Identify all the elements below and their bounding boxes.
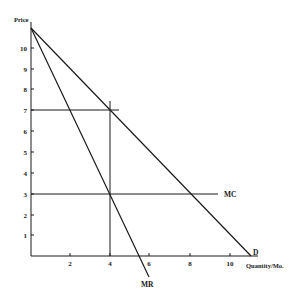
y-tick-10: 10 [20,45,28,53]
y-axis-title: Price [14,16,29,23]
x-tick-6: 6 [147,260,151,268]
y-tick-6: 6 [24,128,28,136]
y-tick-2: 2 [24,212,28,220]
mr-label: MR [141,280,154,289]
y-tick-labels: 10 9 8 7 6 5 4 3 2 1 [20,45,28,240]
x-axis-title: Quantity/Mo. [246,262,284,269]
monopoly-chart: 10 9 8 7 6 5 4 3 2 1 2 4 6 8 10 Price Qu… [0,0,295,296]
y-tick-3: 3 [24,191,28,199]
y-tick-7: 7 [24,107,28,115]
y-tick-5: 5 [24,149,28,157]
y-tick-8: 8 [24,86,28,94]
x-tick-2: 2 [68,260,72,268]
demand-curve [31,28,251,256]
x-tick-labels: 2 4 6 8 10 [68,260,234,268]
y-tick-1: 1 [24,232,28,240]
x-tick-8: 8 [188,260,192,268]
mc-label: MC [224,190,237,199]
x-tick-10: 10 [227,260,235,268]
demand-label: D [253,248,259,257]
x-tick-4: 4 [108,260,112,268]
y-tick-4: 4 [24,170,28,178]
y-tick-9: 9 [24,66,28,74]
mr-curve [31,28,149,277]
